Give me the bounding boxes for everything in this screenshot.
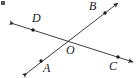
- geometry-figure: D B O A C: [0, 0, 140, 78]
- point-label-O: O: [66, 44, 75, 56]
- geometry-diagram: [0, 0, 140, 78]
- point-label-C: C: [109, 60, 117, 72]
- point-label-D: D: [32, 12, 41, 24]
- point-dot-D: [31, 28, 34, 31]
- point-label-B: B: [89, 0, 96, 12]
- point-dot-B: [103, 11, 106, 14]
- point-label-A: A: [43, 62, 50, 74]
- corner-smudge-artifact: [1, 1, 5, 5]
